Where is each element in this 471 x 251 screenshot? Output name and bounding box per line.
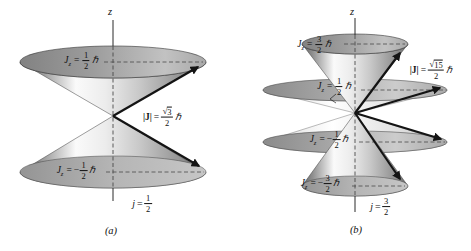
fraction: √152 — [428, 60, 444, 81]
equals-sign: = — [310, 179, 315, 189]
equals-sign: = — [319, 135, 324, 145]
label-jz-plus-three-half-b: Jz = 32 ℏ — [297, 35, 330, 55]
minus-sign: − — [318, 179, 323, 189]
caption-b: (b) — [350, 224, 362, 235]
fraction: 32 — [383, 197, 390, 217]
label-jz-plus-half-a: Jz = 12 ℏ — [64, 51, 97, 71]
equals-sign: = — [66, 166, 71, 176]
equals-sign: = — [327, 82, 332, 92]
panel-a-drawing — [0, 0, 235, 251]
equals-sign: = — [307, 40, 312, 50]
z-axis-label-a: z — [108, 6, 112, 17]
angular-momentum-figure: z Jz = 12 ℏ |J| = √32 ℏ Jz = − 12 ℏ j = … — [0, 0, 471, 251]
label-jz-plus-half-b: Jz = 12 ℏ — [317, 77, 350, 97]
hbar-symbol: ℏ — [345, 82, 351, 92]
label-magnitude-b: |J| = √152 ℏ — [410, 60, 452, 81]
panel-b-drawing — [235, 0, 471, 251]
label-magnitude-a: |J| = √32 ℏ — [143, 107, 181, 128]
equals-sign: = — [74, 56, 79, 66]
jz-subscript: z — [302, 45, 305, 52]
j-magnitude-symbol: |J| — [410, 65, 419, 75]
radicand: 3 — [167, 107, 171, 117]
hbar-symbol: ℏ — [446, 65, 452, 75]
hbar-symbol: ℏ — [342, 135, 348, 145]
hbar-symbol: ℏ — [333, 179, 339, 189]
j-symbol: j — [370, 202, 373, 212]
jz-subscript: z — [69, 61, 72, 68]
j-magnitude-symbol: |J| — [143, 112, 152, 122]
minus-sign: − — [327, 135, 332, 145]
fraction: 12 — [145, 194, 152, 214]
z-axis-label-b: z — [350, 6, 354, 17]
fraction: 32 — [324, 174, 331, 194]
hbar-symbol: ℏ — [89, 166, 95, 176]
radicand: 15 — [434, 60, 443, 70]
equals-sign: = — [421, 65, 426, 75]
fraction: 12 — [335, 77, 342, 97]
hbar-symbol: ℏ — [325, 40, 331, 50]
j-symbol: j — [132, 199, 135, 209]
fraction: √32 — [161, 107, 173, 128]
caption-a: (a) — [105, 225, 117, 236]
label-jz-minus-three-half-b: Jz = − 32 ℏ — [301, 174, 340, 194]
equals-sign: = — [375, 202, 381, 212]
jz-subscript: z — [61, 171, 64, 178]
fraction: 32 — [315, 35, 322, 55]
label-jz-minus-half-b: Jz = − 12 ℏ — [310, 130, 349, 150]
fraction: 12 — [82, 51, 89, 71]
label-j-value-a: j = 12 — [132, 194, 152, 214]
hbar-symbol: ℏ — [92, 56, 98, 66]
jz-subscript: z — [314, 140, 317, 147]
equals-sign: = — [137, 199, 143, 209]
jz-subscript: z — [322, 87, 325, 94]
minus-sign: − — [74, 166, 79, 176]
equals-sign: = — [154, 112, 159, 122]
hbar-symbol: ℏ — [175, 112, 181, 122]
fraction: 12 — [333, 130, 340, 150]
label-j-value-b: j = 32 — [370, 197, 390, 217]
fraction: 12 — [80, 161, 87, 181]
jz-subscript: z — [305, 184, 308, 191]
label-jz-minus-half-a: Jz = − 12 ℏ — [57, 161, 96, 181]
